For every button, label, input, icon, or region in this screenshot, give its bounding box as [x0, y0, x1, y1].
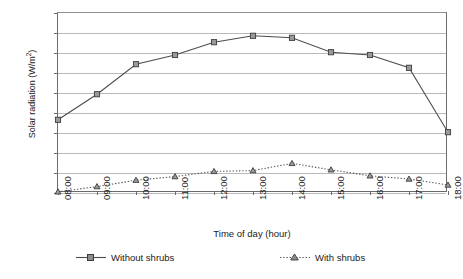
- legend-item-without-shrubs: Without shrubs: [76, 252, 174, 263]
- series-line: [58, 36, 448, 132]
- legend-label-without-shrubs: Without shrubs: [111, 252, 174, 263]
- series-with-shrubs: [55, 160, 451, 194]
- plot-area: 450400350300250200150100500 08:0009:0010…: [57, 12, 447, 192]
- legend-swatch-solid-square: [76, 252, 106, 263]
- y-axis-title-text: Solar radiation (W/m: [27, 56, 37, 138]
- data-point-marker: [94, 184, 100, 189]
- x-axis-tick-label: 18:00: [452, 176, 463, 200]
- data-point-marker: [289, 35, 294, 40]
- data-point-marker: [211, 168, 217, 173]
- gridline: [58, 193, 446, 194]
- x-axis-tick-mark: [448, 191, 449, 195]
- data-point-marker: [55, 189, 61, 194]
- legend-swatch-dotted-triangle: [280, 252, 310, 263]
- series-without-shrubs: [55, 33, 450, 135]
- data-point-marker: [445, 130, 450, 135]
- legend-label-with-shrubs: With shrubs: [315, 252, 365, 263]
- data-point-marker: [328, 50, 333, 55]
- y-axis-title: Solar radiation (W/m2): [25, 14, 37, 174]
- y-axis-title-tail: ): [27, 50, 37, 53]
- data-point-marker: [328, 167, 334, 172]
- y-axis-title-superscript: 2: [25, 53, 32, 57]
- data-point-marker: [172, 52, 177, 57]
- data-point-marker: [367, 52, 372, 57]
- data-point-marker: [289, 160, 295, 165]
- legend-item-with-shrubs: With shrubs: [280, 252, 365, 263]
- data-point-marker: [55, 117, 60, 122]
- series-layer: [58, 13, 448, 193]
- x-axis-title: Time of day (hour): [57, 228, 447, 239]
- data-point-marker: [133, 62, 138, 67]
- data-point-marker: [250, 33, 255, 38]
- data-point-marker: [367, 173, 373, 178]
- data-point-marker: [406, 65, 411, 70]
- chart-legend: Without shrubs With shrubs: [57, 252, 447, 272]
- data-point-marker: [172, 174, 178, 179]
- data-point-marker: [94, 92, 99, 97]
- data-point-marker: [211, 40, 216, 45]
